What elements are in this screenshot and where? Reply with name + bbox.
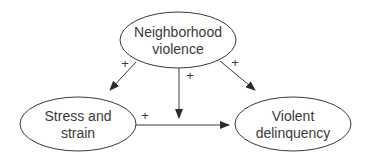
node-label-line-1: Violent (272, 108, 315, 124)
node-label-line-2: strain (61, 125, 95, 141)
edge-sign: + (141, 108, 149, 123)
edge-sign: + (121, 56, 129, 71)
node-violent-delinquency: Violent delinquency (235, 97, 351, 151)
node-label-line-2: violence (152, 41, 204, 57)
node-stress-and-strain: Stress and strain (20, 97, 136, 151)
node-ellipse (235, 97, 351, 151)
causal-diagram: Neighborhood violence Stress and strain … (0, 0, 370, 162)
node-label-line-1: Neighborhood (134, 24, 222, 40)
edge-sign: + (186, 68, 194, 83)
edge-sign: + (231, 55, 239, 70)
node-label-line-2: delinquency (256, 125, 331, 141)
node-label-line-1: Stress and (45, 108, 112, 124)
edge-neighborhood-to-path: + (179, 68, 194, 118)
edge-stress-to-delinquency: + (136, 108, 229, 125)
edge-neighborhood-to-stress: + (110, 56, 136, 90)
node-neighborhood-violence: Neighborhood violence (120, 12, 236, 68)
node-ellipse (20, 97, 136, 151)
node-ellipse (120, 12, 236, 68)
edge-neighborhood-to-delinquency: + (220, 55, 255, 90)
